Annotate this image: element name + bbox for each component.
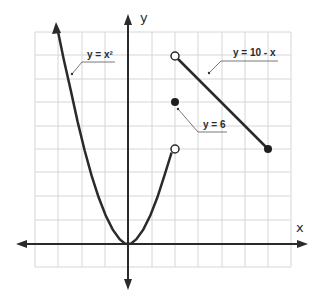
piecewise-function-graph: y x y = x² y = 10 - x y = 6 (0, 0, 320, 301)
open-point-2-8 (171, 52, 179, 60)
point-annotation: y = 6 (177, 108, 227, 132)
filled-point-6-4 (264, 145, 272, 153)
y-axis-down-arrow-icon (124, 279, 132, 290)
parabola-arrow-icon (52, 22, 61, 34)
grid (35, 32, 291, 267)
x-axis-label: x (296, 220, 304, 235)
x-axis-left-arrow-icon (16, 240, 27, 248)
y-axis-label: y (140, 10, 148, 25)
line-label: y = 10 - x (233, 47, 276, 58)
parabola-label: y = x² (87, 49, 114, 60)
parabola-annotation: y = x² (71, 49, 115, 75)
filled-point-2-6 (171, 98, 179, 106)
open-point-2-4 (171, 145, 179, 153)
y-axis-up-arrow-icon (124, 14, 132, 25)
line-annotation: y = 10 - x (208, 47, 278, 74)
parabola-curve (58, 32, 172, 244)
point-label: y = 6 (203, 119, 226, 130)
x-axis-right-arrow-icon (297, 240, 308, 248)
